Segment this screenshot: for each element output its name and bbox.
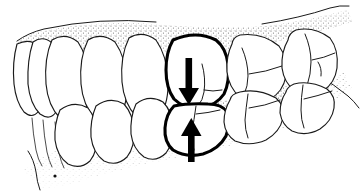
dental-occlusion-drawing — [0, 0, 363, 195]
tooth-upper-molar-1-highlighted — [166, 35, 229, 108]
tooth-lower-premolar-1 — [91, 100, 134, 163]
gum-dot-marker — [53, 174, 56, 177]
dental-illustration-figure — [0, 0, 363, 195]
